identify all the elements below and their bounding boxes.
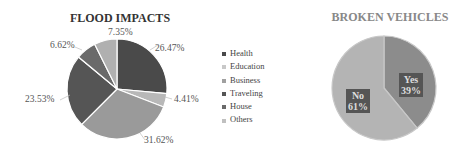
label-health: 26.47% <box>155 43 184 53</box>
label-no: No 61% <box>346 89 370 113</box>
label-education: 4.41% <box>174 94 199 104</box>
label-others: 7.35% <box>108 27 133 37</box>
legend-label: Business <box>230 75 260 85</box>
legend-item-house: House <box>222 100 264 113</box>
yes-label-text: Yes <box>401 74 421 85</box>
no-value-text: 61% <box>348 101 368 112</box>
legend-swatch-icon <box>222 52 226 56</box>
legend-label: Education <box>230 61 264 71</box>
legend-label: Others <box>230 114 253 124</box>
label-yes: Yes 39% <box>399 73 423 97</box>
legend-item-education: Education <box>222 60 264 73</box>
flood-impacts-pie <box>67 39 167 139</box>
label-traveling: 23.53% <box>25 94 54 104</box>
legend-item-health: Health <box>222 47 264 60</box>
legend-label: House <box>230 101 252 111</box>
yes-value-text: 39% <box>401 85 421 96</box>
legend-swatch-icon <box>222 92 226 96</box>
legend-swatch-icon <box>222 65 226 69</box>
legend-item-others: Others <box>222 113 264 126</box>
legend-label: Traveling <box>230 88 263 98</box>
legend-swatch-icon <box>222 79 226 83</box>
legend-item-business: Business <box>222 74 264 87</box>
no-label-text: No <box>348 90 368 101</box>
label-business: 31.62% <box>144 135 173 145</box>
legend-swatch-icon <box>222 119 226 123</box>
legend-swatch-icon <box>222 105 226 109</box>
legend-label: Health <box>230 48 253 58</box>
legend-item-traveling: Traveling <box>222 87 264 100</box>
label-house: 6.62% <box>50 40 75 50</box>
flood-impacts-legend: Health Education Business Traveling Hous… <box>222 47 264 127</box>
